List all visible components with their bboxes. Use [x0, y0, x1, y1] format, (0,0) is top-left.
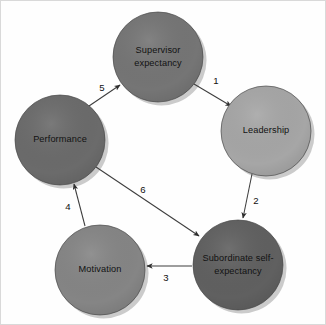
- node-label-motivation-line1: Motivation: [79, 264, 122, 274]
- node-sheen-supervisor-expectancy: [113, 12, 203, 102]
- edge-arrow-1[interactable]: [194, 84, 231, 106]
- diagram-canvas: Supervisor expectancy Leadership Perform…: [0, 0, 326, 325]
- edge-label-3: 3: [163, 272, 168, 283]
- node-label-subordinate-self-expectancy-line2: expectancy: [214, 266, 262, 276]
- node-label-leadership-line1: Leadership: [243, 125, 289, 135]
- node-label-subordinate-self-expectancy-line1: Subordinate self-: [202, 253, 273, 263]
- edge-label-1: 1: [213, 75, 218, 86]
- node-label-performance-line1: Performance: [33, 134, 87, 144]
- node-supervisor-expectancy[interactable]: Supervisor expectancy: [113, 12, 203, 102]
- edge-label-2: 2: [253, 195, 258, 206]
- edge-arrow-4[interactable]: [74, 184, 85, 226]
- node-label-supervisor-expectancy-line2: expectancy: [134, 58, 182, 68]
- node-layer: Supervisor expectancy Leadership Perform…: [15, 12, 311, 315]
- edge-label-4: 4: [65, 201, 71, 212]
- edge-arrow-6[interactable]: [96, 167, 199, 236]
- edge-label-5: 5: [99, 82, 104, 93]
- node-subordinate-self-expectancy[interactable]: Subordinate self- expectancy: [193, 220, 283, 310]
- node-label-supervisor-expectancy-line1: Supervisor: [136, 45, 181, 55]
- node-motivation[interactable]: Motivation: [55, 225, 145, 315]
- edge-label-6: 6: [140, 184, 145, 195]
- edge-arrow-2[interactable]: [243, 174, 252, 218]
- node-performance[interactable]: Performance: [15, 95, 105, 185]
- node-sheen-subordinate-self-expectancy: [193, 220, 283, 310]
- node-leadership[interactable]: Leadership: [221, 86, 311, 176]
- diagram-svg: Supervisor expectancy Leadership Perform…: [0, 0, 326, 325]
